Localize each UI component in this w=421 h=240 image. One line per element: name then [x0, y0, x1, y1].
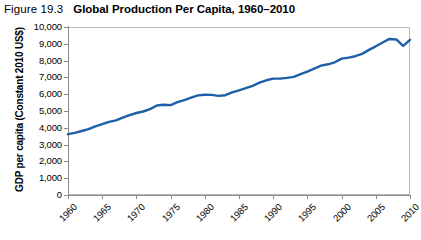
y-tick-mark	[64, 44, 69, 45]
x-tick-mark	[410, 195, 411, 199]
y-tick-label: 4,000	[16, 123, 62, 133]
y-tick-mark	[64, 77, 69, 78]
x-tick-mark	[273, 195, 274, 199]
y-tick-mark	[64, 61, 69, 62]
y-tick-mark	[64, 128, 69, 129]
y-tick-mark	[64, 27, 69, 28]
y-tick-mark	[64, 161, 69, 162]
y-tick-mark	[64, 94, 69, 95]
x-tick-mark	[342, 195, 343, 199]
y-tick-label: 1,000	[16, 173, 62, 183]
x-tick-mark	[102, 195, 103, 199]
x-tick-label: 1960	[28, 202, 79, 240]
x-tick-mark	[136, 195, 137, 199]
y-tick-mark	[64, 145, 69, 146]
x-tick-mark	[205, 195, 206, 199]
y-tick-label: 6,000	[16, 89, 62, 99]
y-tick-label: 3,000	[16, 140, 62, 150]
x-tick-mark	[307, 195, 308, 199]
y-tick-label: 0	[16, 190, 62, 200]
y-tick-label: 9,000	[16, 39, 62, 49]
x-tick-mark	[376, 195, 377, 199]
y-tick-label: 8,000	[16, 56, 62, 66]
x-tick-mark	[239, 195, 240, 199]
plot-area	[68, 27, 410, 195]
y-tick-label: 10,000	[16, 22, 62, 32]
x-tick-mark	[68, 195, 69, 199]
y-tick-mark	[64, 111, 69, 112]
y-tick-mark	[64, 178, 69, 179]
y-tick-label: 5,000	[16, 106, 62, 116]
y-tick-label: 2,000	[16, 156, 62, 166]
x-tick-mark	[171, 195, 172, 199]
y-tick-label: 7,000	[16, 72, 62, 82]
